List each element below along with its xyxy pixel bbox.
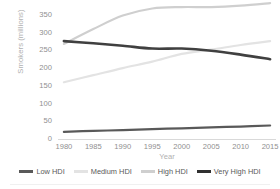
y-axis-tick: 250 — [18, 46, 52, 54]
legend-item[interactable]: Very High HDI — [197, 167, 261, 176]
legend-item[interactable]: High HDI — [141, 167, 188, 176]
x-axis-tick: 2000 — [173, 142, 190, 151]
legend-label: Medium HDI — [91, 167, 132, 176]
x-axis-tick: 1990 — [114, 142, 131, 151]
y-axis-tick: 300 — [18, 29, 52, 37]
legend-label: Very High HDI — [214, 167, 261, 176]
legend-swatch-icon — [74, 170, 88, 172]
line-chart: Smokers (millions) 350300250200150100500… — [0, 0, 280, 189]
series-line — [64, 41, 270, 59]
series-line — [64, 3, 270, 44]
bottom-divider — [10, 184, 270, 185]
x-axis-line — [58, 139, 276, 140]
legend-item[interactable]: Medium HDI — [74, 167, 132, 176]
y-axis-tick: 0 — [18, 135, 52, 143]
y-axis-tick: 100 — [18, 100, 52, 108]
y-axis-tick: 50 — [18, 117, 52, 125]
legend-swatch-icon — [19, 170, 33, 173]
legend-swatch-icon — [197, 170, 211, 173]
plot-svg — [58, 6, 276, 139]
x-axis-title: Year — [58, 152, 276, 161]
plot-area — [58, 6, 276, 139]
x-axis-tick: 2015 — [262, 142, 279, 151]
x-axis-tick: 1985 — [85, 142, 102, 151]
y-axis-tick-labels: 350300250200150100500 — [16, 0, 52, 145]
y-axis-tick: 350 — [18, 11, 52, 19]
series-line — [64, 41, 270, 82]
chart-legend: Low HDIMedium HDIHigh HDIVery High HDI — [0, 167, 280, 176]
x-axis-tick: 2010 — [232, 142, 249, 151]
series-paths — [64, 3, 270, 132]
legend-item[interactable]: Low HDI — [19, 167, 64, 176]
legend-swatch-icon — [141, 170, 155, 172]
y-axis-tick: 200 — [18, 64, 52, 72]
x-axis-tick: 1980 — [55, 142, 72, 151]
legend-label: Low HDI — [36, 167, 64, 176]
series-line — [64, 126, 270, 132]
legend-label: High HDI — [158, 167, 188, 176]
y-axis-tick: 150 — [18, 82, 52, 90]
x-axis-tick: 1995 — [144, 142, 161, 151]
x-axis-tick: 2005 — [203, 142, 220, 151]
